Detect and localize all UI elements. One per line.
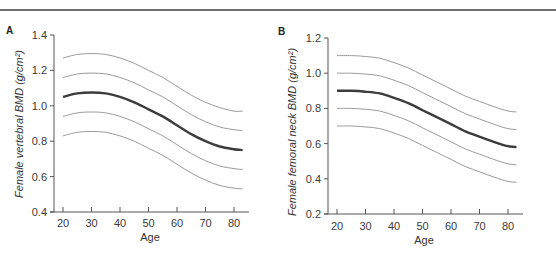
curves xyxy=(337,56,517,183)
x-tick-label: 70 xyxy=(199,217,211,229)
panel-a: A Female vertebral BMD (g/cm²) Age 0.40.… xyxy=(6,25,249,243)
x-axis-label: Age xyxy=(140,231,160,243)
x-tick-label: 50 xyxy=(416,220,428,232)
sd-curve xyxy=(337,126,517,182)
panel-letter: A xyxy=(6,25,13,36)
mean-curve xyxy=(63,93,243,151)
y-tick-label: 0.8 xyxy=(32,135,47,147)
mean-curve xyxy=(337,91,517,147)
x-tick-label: 20 xyxy=(57,217,69,229)
axes: 0.20.40.60.81.01.220304050607080 xyxy=(306,32,523,232)
x-tick-label: 70 xyxy=(473,220,485,232)
sd-curve xyxy=(63,73,243,131)
y-tick-label: 0.8 xyxy=(306,102,321,114)
x-tick-label: 30 xyxy=(85,217,97,229)
panel-b: B Female femoral neck BMD (g/cm²) Age 0.… xyxy=(278,26,523,246)
x-tick-label: 40 xyxy=(114,217,126,229)
sd-curve xyxy=(63,54,243,112)
y-tick-label: 1.2 xyxy=(306,32,321,44)
sd-curve xyxy=(337,56,517,112)
y-axis-label: Female vertebral BMD (g/cm²) xyxy=(13,50,25,198)
y-tick-label: 1.0 xyxy=(306,67,321,79)
x-tick-label: 30 xyxy=(359,220,371,232)
y-tick-label: 1.4 xyxy=(32,29,47,41)
axes: 0.40.60.81.01.21.420304050607080 xyxy=(32,29,249,229)
x-tick-label: 40 xyxy=(388,220,400,232)
y-tick-label: 1.2 xyxy=(32,64,47,76)
x-tick-label: 60 xyxy=(171,217,183,229)
sd-curve xyxy=(337,73,517,129)
y-tick-label: 0.4 xyxy=(306,173,321,185)
x-tick-label: 80 xyxy=(502,220,514,232)
x-tick-label: 80 xyxy=(228,217,240,229)
x-axis-label: Age xyxy=(414,234,434,246)
y-axis-label: Female femoral neck BMD (g/cm²) xyxy=(286,48,298,216)
sd-curve xyxy=(337,108,517,164)
y-tick-label: 1.0 xyxy=(32,100,47,112)
curves xyxy=(63,54,243,189)
x-tick-label: 50 xyxy=(142,217,154,229)
y-tick-label: 0.2 xyxy=(306,208,321,220)
sd-curve xyxy=(63,132,243,190)
x-tick-label: 60 xyxy=(445,220,457,232)
x-tick-label: 20 xyxy=(331,220,343,232)
y-tick-label: 0.6 xyxy=(32,171,47,183)
y-tick-label: 0.6 xyxy=(306,138,321,150)
y-tick-label: 0.4 xyxy=(32,206,47,218)
figure: A Female vertebral BMD (g/cm²) Age 0.40.… xyxy=(0,0,556,255)
sd-curve xyxy=(63,112,243,170)
panel-letter: B xyxy=(278,26,285,37)
